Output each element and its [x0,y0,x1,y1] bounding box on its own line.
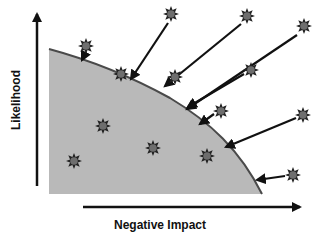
star-icon-s6 [145,140,161,156]
star-icon-s13 [295,107,311,123]
risk-diagram: Likelihood Negative Impact [0,0,320,236]
arrow-s14 [257,176,285,180]
star-icon-s5 [95,118,111,134]
star-icon-s8 [66,153,82,169]
star-icon-s3 [167,69,183,85]
star-icon-s1 [78,38,94,54]
star-icon-s2 [113,66,129,82]
arrow-s9 [131,23,168,79]
star-icon-s10 [239,8,255,24]
arrow-s13 [226,118,296,147]
star-icon-s12 [243,62,259,78]
star-icon-s4 [213,103,229,119]
star-icon-s14 [285,167,301,183]
acceptable-risk-region [49,49,262,194]
arrow-s12 [188,74,244,107]
star-icon-s7 [199,148,215,164]
y-axis-label: Likelihood [9,70,23,130]
x-axis-label: Negative Impact [114,218,206,232]
star-icon-s11 [296,18,312,34]
star-icon-s9 [163,6,179,22]
